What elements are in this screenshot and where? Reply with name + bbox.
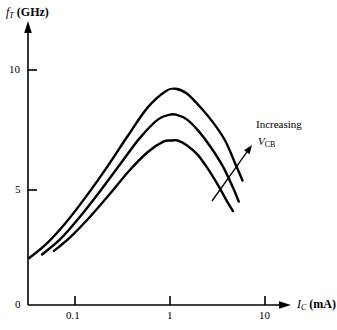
y-axis-unit: (GHz) [17, 5, 49, 19]
chart-curves [29, 89, 242, 258]
x-axis [28, 301, 291, 309]
curve-bottom-lowest-VCB [54, 140, 233, 251]
y-axis-subscript: T [9, 11, 13, 20]
y-axis-ticks [28, 70, 37, 190]
x-axis-unit: (mA) [309, 297, 336, 311]
x-tick-label-0.1: 0.1 [66, 310, 80, 321]
annotation-vcb-label: VCB [258, 136, 275, 149]
chart-figure: fT (GHz) IC (mA) 10 5 0 0.1 1 10 Increas… [0, 0, 337, 330]
x-tick-label-10: 10 [259, 310, 270, 321]
x-axis-ticks [75, 296, 265, 305]
y-tick-label-10: 10 [9, 64, 20, 75]
annotation-increasing-label: Increasing [256, 119, 302, 130]
annotation-vcb-symbol: V [258, 135, 265, 147]
x-tick-label-1: 1 [167, 310, 173, 321]
annotation-vcb-subscript: CB [265, 140, 276, 149]
y-tick-label-5: 5 [15, 184, 21, 195]
curve-middle [42, 114, 239, 254]
chart-plot-area [0, 0, 337, 330]
x-axis-title: IC (mA) [297, 298, 336, 312]
y-axis [24, 21, 32, 305]
x-axis-subscript: C [301, 303, 306, 312]
y-axis-title: fT (GHz) [6, 6, 49, 20]
y-tick-label-0: 0 [15, 299, 21, 310]
